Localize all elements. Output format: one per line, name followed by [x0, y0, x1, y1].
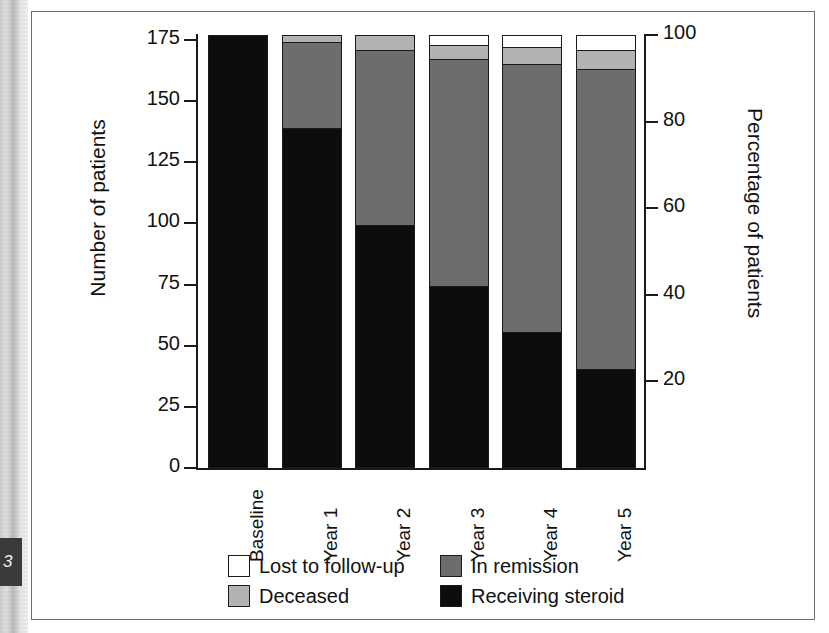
chart-legend: Lost to follow-upIn remissionDeceasedRec…	[228, 551, 648, 611]
legend-swatch-deceased	[228, 585, 250, 607]
legend-swatch-lost-to-follow-up	[228, 555, 250, 577]
y-ticklabel-left-125: 125	[122, 148, 180, 171]
legend-label-lost-to-follow-up: Lost to follow-up	[259, 555, 405, 578]
legend-item-in-remission[interactable]: In remission	[440, 555, 648, 578]
legend-item-receiving-steroid[interactable]: Receiving steroid	[440, 585, 648, 608]
y-tick-left-50	[184, 345, 197, 347]
y-ticklabel-left-50: 50	[122, 332, 180, 355]
bar-segment-receiving-steroid	[209, 36, 267, 467]
bar-segment-in-remission	[283, 43, 341, 128]
bar-segment-deceased	[503, 48, 561, 65]
y-axis-right-title: Percentage of patients	[743, 108, 767, 308]
bar-segment-lost-to-follow-up	[577, 36, 635, 51]
y-ticklabel-left-100: 100	[122, 209, 180, 232]
y-tick-left-100	[184, 222, 197, 224]
y-tick-right-40	[645, 294, 658, 296]
y-tick-right-100	[645, 34, 658, 36]
bar-segment-receiving-steroid	[577, 370, 635, 467]
bar-segment-receiving-steroid	[356, 226, 414, 467]
legend-label-in-remission: In remission	[471, 555, 579, 578]
bar-year-2[interactable]	[355, 35, 415, 468]
y-ticklabel-right-40: 40	[663, 281, 685, 304]
y-tick-left-0	[184, 467, 197, 469]
y-tick-left-175	[184, 39, 197, 41]
bar-segment-lost-to-follow-up	[430, 36, 488, 46]
bar-segment-in-remission	[430, 60, 488, 286]
y-tick-left-75	[184, 284, 197, 286]
legend-swatch-receiving-steroid	[440, 585, 462, 607]
y-ticklabel-left-75: 75	[122, 271, 180, 294]
bar-segment-in-remission	[356, 51, 414, 226]
y-tick-right-20	[645, 380, 658, 382]
legend-swatch-in-remission	[440, 555, 462, 577]
legend-item-deceased[interactable]: Deceased	[228, 585, 440, 608]
bar-segment-deceased	[577, 51, 635, 70]
y-ticklabel-left-0: 0	[122, 454, 180, 477]
bar-segment-deceased	[356, 36, 414, 51]
y-tick-right-60	[645, 207, 658, 209]
bar-segment-in-remission	[503, 65, 561, 333]
legend-item-lost-to-follow-up[interactable]: Lost to follow-up	[228, 555, 440, 578]
bar-segment-receiving-steroid	[430, 287, 488, 467]
bar-segment-deceased	[283, 36, 341, 43]
y-ticklabel-right-80: 80	[663, 108, 685, 131]
y-ticklabel-left-175: 175	[122, 26, 180, 49]
x-axis-line	[196, 468, 646, 470]
y-axis-right-line	[644, 34, 646, 470]
bar-year-1[interactable]	[282, 35, 342, 468]
y-tick-left-125	[184, 161, 197, 163]
y-ticklabel-right-20: 20	[663, 367, 685, 390]
bar-year-3[interactable]	[429, 35, 489, 468]
y-ticklabel-left-25: 25	[122, 393, 180, 416]
y-tick-left-150	[184, 100, 197, 102]
y-tick-right-80	[645, 121, 658, 123]
legend-label-receiving-steroid: Receiving steroid	[471, 585, 624, 608]
bar-segment-deceased	[430, 46, 488, 61]
bar-year-5[interactable]	[576, 35, 636, 468]
y-ticklabel-left-150: 150	[122, 87, 180, 110]
y-ticklabel-right-60: 60	[663, 194, 685, 217]
y-tick-left-25	[184, 406, 197, 408]
bar-baseline[interactable]	[208, 35, 268, 468]
bar-segment-lost-to-follow-up	[503, 36, 561, 48]
legend-label-deceased: Deceased	[259, 585, 349, 608]
bar-segment-in-remission	[577, 70, 635, 370]
bar-year-4[interactable]	[502, 35, 562, 468]
bar-segment-receiving-steroid	[283, 129, 341, 467]
y-ticklabel-right-100: 100	[663, 21, 696, 44]
stacked-bar-chart: Number of patients Percentage of patient…	[0, 0, 829, 633]
bar-segment-receiving-steroid	[503, 333, 561, 467]
y-axis-left-title: Number of patients	[86, 108, 110, 308]
